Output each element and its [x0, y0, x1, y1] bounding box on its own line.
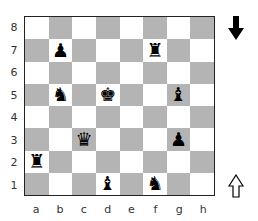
square-g2[interactable] — [167, 151, 191, 173]
black-bishop-piece[interactable]: ♝ — [170, 85, 187, 104]
black-knight-piece[interactable]: ♞ — [52, 85, 69, 104]
square-d8[interactable] — [96, 17, 120, 39]
square-g7[interactable] — [167, 39, 191, 61]
square-a1[interactable] — [25, 173, 49, 195]
black-queen-piece[interactable]: ♛ — [76, 130, 93, 149]
black-arrow-down-icon — [228, 16, 244, 40]
white-arrow-up-icon — [228, 174, 244, 198]
square-g6[interactable] — [167, 62, 191, 84]
square-c3[interactable]: ♛ — [72, 128, 96, 150]
square-h4[interactable] — [190, 106, 214, 128]
square-c2[interactable] — [72, 151, 96, 173]
square-b5[interactable]: ♞ — [49, 84, 73, 106]
square-h8[interactable] — [190, 17, 214, 39]
square-c4[interactable] — [72, 106, 96, 128]
square-f3[interactable] — [143, 128, 167, 150]
square-b4[interactable] — [49, 106, 73, 128]
chess-board[interactable]: ♟♜♞♚♝♛♟♜♝♞ — [24, 16, 215, 196]
square-c6[interactable] — [72, 62, 96, 84]
file-label: a — [24, 203, 48, 216]
square-h3[interactable] — [190, 128, 214, 150]
square-f7[interactable]: ♜ — [143, 39, 167, 61]
file-label: b — [48, 203, 72, 216]
square-e8[interactable] — [120, 17, 144, 39]
square-b3[interactable] — [49, 128, 73, 150]
square-b8[interactable] — [49, 17, 73, 39]
square-b1[interactable] — [49, 173, 73, 195]
square-a4[interactable] — [25, 106, 49, 128]
file-label: g — [167, 203, 191, 216]
square-f8[interactable] — [143, 17, 167, 39]
square-g5[interactable]: ♝ — [167, 84, 191, 106]
black-knight-piece[interactable]: ♞ — [146, 174, 163, 193]
square-c1[interactable] — [72, 173, 96, 195]
rank-label: 5 — [8, 89, 20, 102]
square-g1[interactable] — [167, 173, 191, 195]
square-f5[interactable] — [143, 84, 167, 106]
square-e2[interactable] — [120, 151, 144, 173]
rank-label: 2 — [8, 156, 20, 169]
rank-label: 8 — [8, 21, 20, 34]
file-label: f — [143, 203, 167, 216]
rank-label: 6 — [8, 66, 20, 79]
black-rook-piece[interactable]: ♜ — [28, 152, 45, 171]
square-f1[interactable]: ♞ — [143, 173, 167, 195]
square-b7[interactable]: ♟ — [49, 39, 73, 61]
square-f4[interactable] — [143, 106, 167, 128]
rank-label: 1 — [8, 179, 20, 192]
square-d4[interactable] — [96, 106, 120, 128]
square-d5[interactable]: ♚ — [96, 84, 120, 106]
square-g8[interactable] — [167, 17, 191, 39]
square-a8[interactable] — [25, 17, 49, 39]
square-d1[interactable]: ♝ — [96, 173, 120, 195]
square-g3[interactable]: ♟ — [167, 128, 191, 150]
square-d6[interactable] — [96, 62, 120, 84]
square-h1[interactable] — [190, 173, 214, 195]
square-f6[interactable] — [143, 62, 167, 84]
square-e5[interactable] — [120, 84, 144, 106]
square-e7[interactable] — [120, 39, 144, 61]
black-rook-piece[interactable]: ♜ — [146, 41, 163, 60]
black-bishop-piece[interactable]: ♝ — [99, 174, 116, 193]
square-e4[interactable] — [120, 106, 144, 128]
square-b2[interactable] — [49, 151, 73, 173]
square-g4[interactable] — [167, 106, 191, 128]
file-label: d — [96, 203, 120, 216]
black-king-piece[interactable]: ♚ — [99, 85, 116, 104]
rank-label: 4 — [8, 111, 20, 124]
square-a6[interactable] — [25, 62, 49, 84]
square-d3[interactable] — [96, 128, 120, 150]
rank-label: 7 — [8, 44, 20, 57]
square-f2[interactable] — [143, 151, 167, 173]
square-c7[interactable] — [72, 39, 96, 61]
square-h7[interactable] — [190, 39, 214, 61]
square-e1[interactable] — [120, 173, 144, 195]
square-a5[interactable] — [25, 84, 49, 106]
square-d2[interactable] — [96, 151, 120, 173]
square-c8[interactable] — [72, 17, 96, 39]
square-h6[interactable] — [190, 62, 214, 84]
square-e3[interactable] — [120, 128, 144, 150]
square-a7[interactable] — [25, 39, 49, 61]
square-c5[interactable] — [72, 84, 96, 106]
square-d7[interactable] — [96, 39, 120, 61]
file-label: h — [191, 203, 215, 216]
black-pawn-piece[interactable]: ♟ — [170, 130, 187, 149]
rank-label: 3 — [8, 134, 20, 147]
square-h2[interactable] — [190, 151, 214, 173]
file-label: e — [120, 203, 144, 216]
square-b6[interactable] — [49, 62, 73, 84]
square-e6[interactable] — [120, 62, 144, 84]
square-a2[interactable]: ♜ — [25, 151, 49, 173]
file-label: c — [72, 203, 96, 216]
black-pawn-piece[interactable]: ♟ — [52, 41, 69, 60]
square-h5[interactable] — [190, 84, 214, 106]
square-a3[interactable] — [25, 128, 49, 150]
